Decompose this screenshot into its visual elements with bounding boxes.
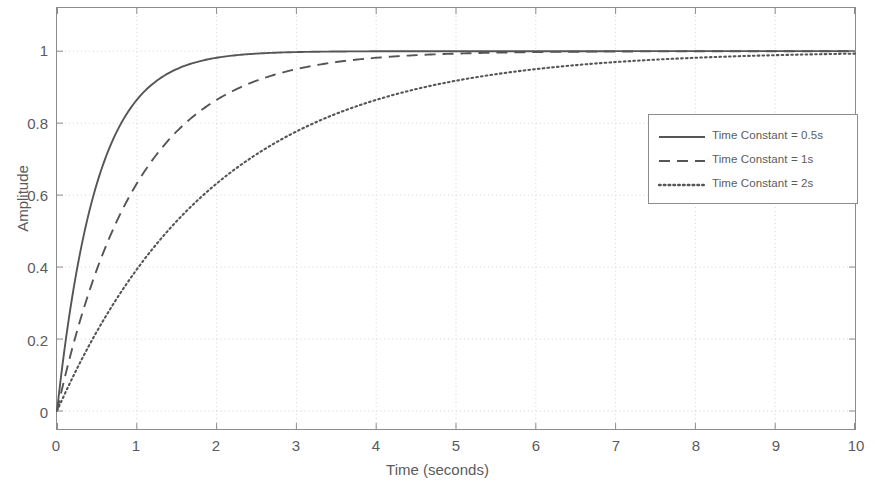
y-tick-label: 0.2 xyxy=(27,331,48,348)
y-tick-label: 1 xyxy=(40,42,48,59)
legend-label: Time Constant = 1s xyxy=(712,153,813,165)
x-tick-label: 4 xyxy=(372,437,380,454)
x-tick-label: 5 xyxy=(452,437,460,454)
x-tick-label: 8 xyxy=(692,437,700,454)
x-axis-title: Time (seconds) xyxy=(0,461,875,478)
legend-line-sample-dotted xyxy=(658,177,706,189)
x-tick-label: 7 xyxy=(612,437,620,454)
y-tick-label: 0.4 xyxy=(27,259,48,276)
tick-marks xyxy=(57,8,855,429)
x-tick-label: 9 xyxy=(772,437,780,454)
legend-line-sample-dashed xyxy=(658,153,706,165)
plot-area: Time Constant = 0.5sTime Constant = 1sTi… xyxy=(56,7,856,430)
y-axis-title: Amplitude xyxy=(14,144,31,254)
figure-canvas: Time Constant = 0.5sTime Constant = 1sTi… xyxy=(0,0,875,488)
legend-label: Time Constant = 0.5s xyxy=(712,129,823,141)
legend-entry: Time Constant = 2s xyxy=(649,171,857,195)
y-tick-label: 0.8 xyxy=(27,114,48,131)
x-tick-label: 2 xyxy=(212,437,220,454)
x-tick-label: 1 xyxy=(132,437,140,454)
legend-entry: Time Constant = 1s xyxy=(649,147,857,171)
x-tick-label: 3 xyxy=(292,437,300,454)
x-tick-label: 6 xyxy=(532,437,540,454)
legend-label: Time Constant = 2s xyxy=(712,177,813,189)
x-tick-label: 10 xyxy=(848,437,865,454)
legend-box: Time Constant = 0.5sTime Constant = 1sTi… xyxy=(648,114,858,204)
y-tick-label: 0 xyxy=(40,403,48,420)
legend-line-sample-solid xyxy=(658,129,706,141)
legend-entry: Time Constant = 0.5s xyxy=(649,123,857,147)
x-tick-label: 0 xyxy=(52,437,60,454)
